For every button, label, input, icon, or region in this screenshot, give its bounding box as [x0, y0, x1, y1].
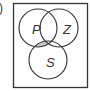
set-s-label: S	[46, 55, 55, 70]
set-z-label: Z	[62, 22, 72, 37]
venn-diagram: ) P Z S	[0, 0, 90, 91]
partial-label: )	[0, 1, 3, 15]
set-p-label: P	[32, 22, 41, 37]
